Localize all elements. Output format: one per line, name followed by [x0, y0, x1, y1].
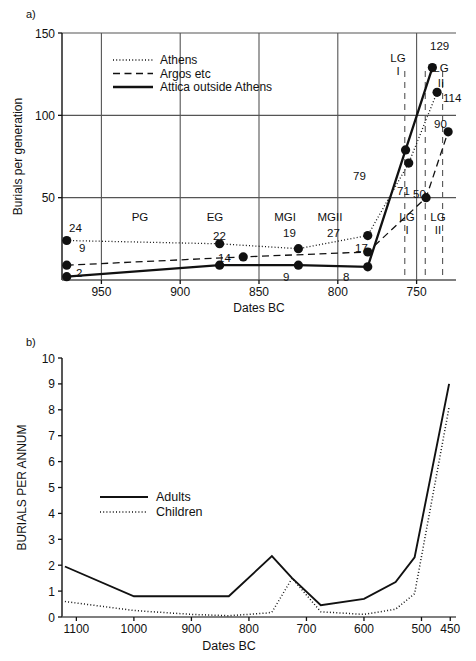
y-tick-label-8: 8: [48, 403, 55, 417]
y-tick-label-1: 1: [48, 585, 55, 599]
legend-label: Children: [156, 505, 203, 519]
plot-frame: [62, 358, 456, 617]
x-tick-label-750: 750: [407, 285, 427, 299]
x-tick-label-700: 700: [296, 622, 316, 636]
x-tick-label-600: 600: [354, 622, 374, 636]
data-label: 2: [76, 267, 82, 279]
data-label: 9: [79, 242, 85, 254]
period-label: I: [405, 224, 408, 236]
y-tick-label-2: 2: [48, 559, 55, 573]
data-point: [404, 158, 413, 167]
period-label-upper: I: [396, 65, 399, 77]
data-label: 9: [283, 271, 289, 283]
chart-panel-a: 50100150 950900850800750 249222141992717…: [0, 0, 476, 330]
legend-label: Attica outside Athens: [160, 80, 272, 94]
data-label: 129: [430, 40, 449, 52]
period-label: LG: [430, 211, 445, 223]
x-axis-ticks: 11001000900800700600500450: [63, 617, 460, 636]
chart-panel-b: 012345678910 11001000900800700600500450 …: [0, 330, 476, 661]
y-tick-label-100: 100: [35, 109, 55, 123]
data-label: 71: [397, 185, 410, 197]
data-label: 14: [218, 252, 231, 264]
y-tick-label-10: 10: [42, 352, 56, 366]
x-tick-label-800: 800: [328, 285, 348, 299]
x-tick-label-900: 900: [170, 285, 190, 299]
data-label: 79: [353, 170, 366, 182]
data-points-group: [62, 63, 453, 281]
y-tick-label-150: 150: [35, 27, 55, 41]
period-label: MGI: [274, 211, 296, 223]
data-label: 90: [434, 118, 447, 130]
data-point: [239, 252, 248, 261]
x-tick-label-450: 450: [440, 622, 460, 636]
legend-panel-b: AdultsChildren: [100, 490, 203, 519]
period-label: MGII: [318, 211, 343, 223]
x-axis-ticks: 950900850800750: [91, 280, 427, 299]
panel-b-letter: b): [26, 336, 36, 348]
period-label-upper: LG: [390, 52, 405, 64]
period-label-upper: LG: [433, 62, 448, 74]
data-label: 19: [283, 227, 296, 239]
y-tick-label-5: 5: [48, 481, 55, 495]
x-axis-label: Dates BC: [202, 639, 256, 653]
period-label: LG: [399, 211, 414, 223]
x-tick-label-500: 500: [411, 622, 431, 636]
data-label: 8: [343, 271, 349, 283]
legend-label: Adults: [156, 490, 191, 504]
x-tick-label-1000: 1000: [121, 622, 148, 636]
y-tick-label-50: 50: [42, 191, 56, 205]
y-tick-label-4: 4: [48, 507, 55, 521]
panel-b: b) 012345678910 110010009008007006005004…: [0, 330, 476, 661]
y-tick-label-6: 6: [48, 455, 55, 469]
data-point: [401, 145, 410, 154]
data-series-group: [67, 68, 448, 277]
legend-panel-a: AthensArgos etcAttica outside Athens: [113, 53, 272, 94]
x-tick-label-850: 850: [249, 285, 269, 299]
data-label: 22: [213, 230, 226, 242]
legend-label: Argos etc: [160, 67, 211, 81]
data-series-group: [65, 384, 449, 616]
y-tick-label-0: 0: [48, 611, 55, 625]
x-tick-label-800: 800: [239, 622, 259, 636]
data-label: 27: [327, 227, 340, 239]
period-label: PG: [132, 211, 149, 223]
data-label: 114: [443, 92, 462, 104]
series-line-adults: [65, 384, 449, 605]
period-label: II: [435, 224, 441, 236]
data-point: [294, 244, 303, 253]
panel-a-letter: a): [26, 8, 36, 20]
panel-a: a) 50100150 950900850800750 249222141992…: [0, 0, 476, 330]
data-point: [432, 88, 441, 97]
y-axis-ticks: 012345678910: [42, 352, 62, 625]
period-label-upper: II: [438, 77, 444, 89]
y-tick-label-9: 9: [48, 377, 55, 391]
data-label: 24: [69, 222, 82, 234]
x-tick-label-900: 900: [181, 622, 201, 636]
y-axis-ticks: 50100150: [35, 27, 62, 206]
data-point: [363, 262, 372, 271]
y-tick-label-7: 7: [48, 429, 55, 443]
data-point: [62, 261, 71, 270]
legend-label: Athens: [160, 53, 197, 67]
y-axis-label: BURIALS PER ANNUM: [15, 424, 29, 550]
x-tick-label-1100: 1100: [63, 622, 89, 636]
y-tick-label-3: 3: [48, 533, 55, 547]
data-label: 17: [355, 242, 368, 254]
data-point: [294, 261, 303, 270]
x-axis-label: Dates BC: [233, 301, 285, 315]
y-axis-label: Burials per generation: [11, 98, 25, 215]
x-tick-label-950: 950: [91, 285, 111, 299]
period-label: EG: [207, 211, 224, 223]
data-point: [62, 236, 71, 245]
data-label: 50: [413, 188, 426, 200]
data-point: [363, 231, 372, 240]
data-point: [62, 272, 71, 281]
